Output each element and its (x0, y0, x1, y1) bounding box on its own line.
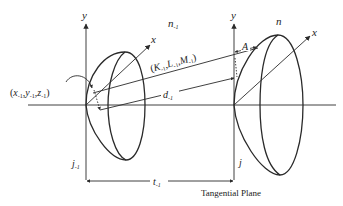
offset-a-label: A (241, 41, 249, 52)
right-dotted-projection (235, 58, 237, 77)
right-y-axis-label: y (230, 9, 236, 21)
right-x-axis-label: x (311, 26, 317, 38)
left-vertex-label: j-1 (70, 158, 80, 170)
left-y-axis-label: y (81, 9, 87, 21)
optical-diagram: y y x x A n-1 n (x-1,y-1,z-1) (K-1,L-1,M… (0, 0, 343, 206)
tangential-plane-label: Tangential Plane (201, 188, 261, 198)
left-index-label: n-1 (168, 17, 179, 30)
point-coordinates-label: (x-1,y-1,z-1) (10, 87, 50, 99)
left-x-axis-label: x (150, 33, 156, 45)
right-index-label: n (276, 15, 282, 27)
right-vertex-label: j (237, 157, 242, 168)
